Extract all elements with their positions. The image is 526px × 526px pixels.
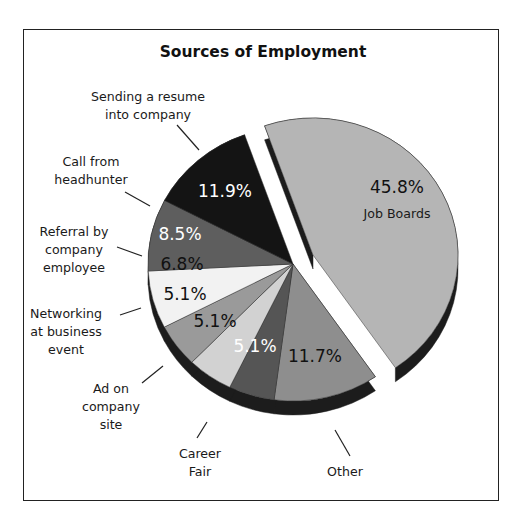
slice-percent-label: 11.7% bbox=[288, 346, 342, 366]
slice-percent-label: 11.9% bbox=[198, 181, 252, 201]
slice-percent-label: 45.8% bbox=[370, 177, 424, 197]
callout-headhunter: Call fromheadhunter bbox=[54, 154, 128, 187]
leader-line bbox=[177, 125, 199, 150]
leader-line bbox=[120, 308, 141, 315]
slice-percent-label: 6.8% bbox=[160, 254, 203, 274]
job-boards-label: Job Boards bbox=[363, 206, 431, 221]
callout-ad: Ad oncompanysite bbox=[82, 381, 141, 432]
leader-line bbox=[335, 430, 350, 456]
callout-networking: Networkingat businessevent bbox=[30, 306, 102, 357]
callout-career-fair: CareerFair bbox=[179, 446, 222, 479]
callout-other: Other bbox=[327, 464, 364, 479]
leader-line bbox=[142, 366, 163, 383]
slice-percent-label: 8.5% bbox=[158, 224, 201, 244]
slice-percent-label: 5.1% bbox=[233, 336, 276, 356]
slice-percent-label: 5.1% bbox=[193, 311, 236, 331]
leader-line bbox=[197, 422, 207, 438]
leader-line bbox=[125, 192, 150, 206]
callout-resume: Sending a resumeinto company bbox=[91, 89, 205, 122]
pie-chart: 45.8%11.7%5.1%5.1%5.1%6.8%8.5%11.9%Job B… bbox=[0, 0, 526, 526]
leader-line bbox=[117, 247, 142, 256]
slice-percent-label: 5.1% bbox=[163, 284, 206, 304]
callout-referral: Referral bycompanyemployee bbox=[40, 224, 109, 275]
